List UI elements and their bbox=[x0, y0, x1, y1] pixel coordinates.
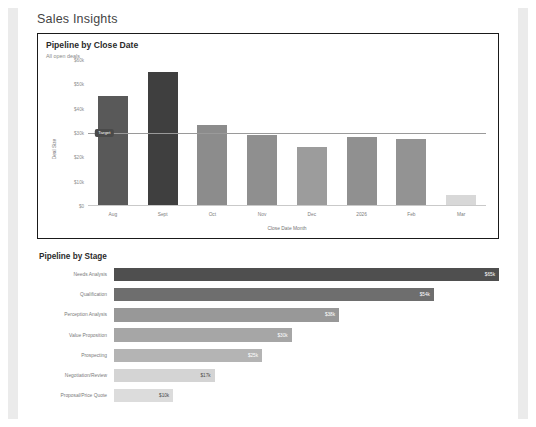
stage-bar-track: $25k bbox=[114, 349, 499, 363]
stage-value-label: $30k bbox=[278, 333, 292, 338]
bar[interactable] bbox=[297, 147, 327, 205]
close-date-plot-area: Deal Size $60k$50k$40k$30k$20k$10k$0 Aug… bbox=[38, 60, 498, 238]
y-tick-label: $30k bbox=[48, 131, 84, 136]
stage-bar[interactable]: $10k bbox=[114, 389, 173, 403]
left-edge-strip bbox=[8, 8, 18, 419]
stage-row[interactable]: Perception Analysis$38k bbox=[37, 307, 499, 322]
card-subtitle-close-date: All open deals bbox=[46, 53, 498, 59]
x-tick-label: Nov bbox=[237, 212, 287, 217]
y-tick-label: $40k bbox=[48, 106, 84, 111]
stage-label: Proposal/Price Quote bbox=[37, 393, 114, 398]
x-tick-label: Feb bbox=[387, 212, 437, 217]
x-tick-label: 2026 bbox=[337, 212, 387, 217]
bar[interactable] bbox=[148, 72, 178, 205]
stage-value-label: $25k bbox=[248, 353, 262, 358]
card-title-stage: Pipeline by Stage bbox=[39, 252, 499, 261]
stage-value-label: $38k bbox=[325, 312, 339, 317]
close-date-plot: AugSeptOctNovDec2026FebMar Target Close … bbox=[88, 60, 486, 206]
x-tick-label: Oct bbox=[188, 212, 238, 217]
y-tick-label: $10k bbox=[48, 179, 84, 184]
stage-label: Negotiation/Review bbox=[37, 373, 114, 378]
stage-value-label: $65k bbox=[485, 272, 499, 277]
stage-row[interactable]: Negotiation/Review$17k bbox=[37, 368, 499, 383]
y-tick-label: $60k bbox=[48, 58, 84, 63]
y-axis-tick-labels: $60k$50k$40k$30k$20k$10k$0 bbox=[48, 60, 84, 206]
stage-bar[interactable]: $17k bbox=[114, 369, 215, 383]
x-tick-label: Sept bbox=[138, 212, 188, 217]
page-title: Sales Insights bbox=[37, 12, 512, 26]
card-title-close-date: Pipeline by Close Date bbox=[46, 40, 498, 50]
stage-value-label: $54k bbox=[420, 292, 434, 297]
card-header: Pipeline by Close Date All open deals bbox=[38, 34, 498, 59]
right-edge-strip bbox=[518, 8, 528, 419]
stage-bar[interactable]: $25k bbox=[114, 349, 262, 363]
stage-row[interactable]: Qualification$54k bbox=[37, 287, 499, 302]
stage-value-label: $17k bbox=[201, 373, 215, 378]
target-badge: Target bbox=[95, 128, 114, 136]
stage-bar-track: $38k bbox=[114, 308, 499, 322]
y-tick-label: $0 bbox=[48, 204, 84, 209]
stage-label: Value Proposition bbox=[37, 333, 114, 338]
stage-label: Qualification bbox=[37, 292, 114, 297]
stage-value-label: $10k bbox=[159, 393, 173, 398]
stage-row[interactable]: Proposal/Price Quote$10k bbox=[37, 388, 499, 403]
y-tick-label: $50k bbox=[48, 82, 84, 87]
stage-bar-track: $10k bbox=[114, 389, 499, 403]
stage-bar[interactable]: $30k bbox=[114, 328, 292, 342]
stage-bar-track: $30k bbox=[114, 328, 499, 342]
stage-row[interactable]: Value Proposition$30k bbox=[37, 328, 499, 343]
stage-bar-track: $17k bbox=[114, 369, 499, 383]
stage-label: Prospecting bbox=[37, 353, 114, 358]
stage-bar[interactable]: $65k bbox=[114, 268, 499, 282]
stage-bar-track: $65k bbox=[114, 268, 499, 282]
stage-bar[interactable]: $38k bbox=[114, 308, 339, 322]
bar[interactable] bbox=[197, 125, 227, 205]
card-pipeline-by-close-date[interactable]: Pipeline by Close Date All open deals De… bbox=[37, 33, 499, 239]
horizontal-bar-group: Needs Analysis$65kQualification$54kPerce… bbox=[37, 267, 499, 403]
stage-bar-track: $54k bbox=[114, 288, 499, 302]
bar[interactable] bbox=[446, 195, 476, 205]
stage-label: Needs Analysis bbox=[37, 272, 114, 277]
bar[interactable] bbox=[347, 137, 377, 205]
bar[interactable] bbox=[98, 96, 128, 205]
stage-row[interactable]: Prospecting$25k bbox=[37, 348, 499, 363]
stage-row[interactable]: Needs Analysis$65k bbox=[37, 267, 499, 282]
page-container: Sales Insights Pipeline by Close Date Al… bbox=[24, 0, 512, 427]
x-tick-label: Aug bbox=[88, 212, 138, 217]
card-pipeline-by-stage[interactable]: Pipeline by Stage Needs Analysis$65kQual… bbox=[37, 252, 499, 417]
bar[interactable] bbox=[396, 139, 426, 205]
stage-label: Perception Analysis bbox=[37, 312, 114, 317]
x-tick-label: Mar bbox=[436, 212, 486, 217]
bar[interactable] bbox=[247, 135, 277, 205]
y-tick-label: $20k bbox=[48, 155, 84, 160]
stage-bar[interactable]: $54k bbox=[114, 288, 434, 302]
x-axis-title: Close Date Month bbox=[88, 226, 486, 231]
target-reference-line bbox=[88, 133, 486, 134]
x-tick-label: Dec bbox=[287, 212, 337, 217]
